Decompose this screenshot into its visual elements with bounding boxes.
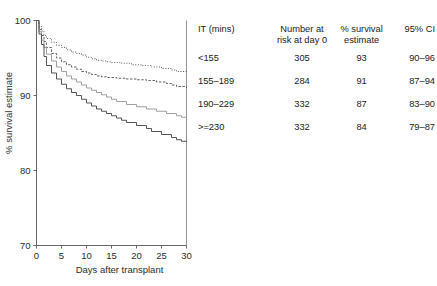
- column-header-ci-line1: 95% CI: [390, 24, 435, 35]
- cell-it: >=230: [198, 117, 271, 140]
- cell-ci: 83–90: [390, 94, 437, 117]
- x-tick-label: 30: [181, 250, 192, 261]
- column-header-it-line1: IT (mins): [198, 24, 271, 35]
- table-body: <1553059390–96155–1892849187–94190–22933…: [198, 48, 437, 140]
- survival-stats-table: IT (mins) Number at risk at day 0 % surv…: [198, 24, 437, 140]
- survival-figure: 708090100051015202530Days after transpla…: [0, 0, 437, 286]
- x-axis-title: Days after transplant: [76, 264, 164, 275]
- cell-ci: 79–87: [390, 117, 437, 140]
- cell-it: 190–229: [198, 94, 271, 117]
- stats-table-element: IT (mins) Number at risk at day 0 % surv…: [198, 24, 437, 140]
- survival-curve-4: [37, 21, 187, 143]
- chart-canvas: 708090100051015202530Days after transpla…: [0, 0, 200, 286]
- y-tick-label: 90: [20, 90, 31, 101]
- survival-curve-3: [37, 21, 187, 119]
- column-header-it: IT (mins): [198, 24, 271, 48]
- column-header-number-at-risk-line1: Number at: [271, 24, 333, 35]
- x-tick-label: 20: [131, 250, 142, 261]
- x-tick-label: 0: [34, 250, 39, 261]
- cell-survival-estimate: 91: [333, 71, 391, 94]
- cell-number-at-risk: 332: [271, 94, 333, 117]
- y-tick-label: 80: [20, 165, 31, 176]
- y-axis-title: % survival estimate: [3, 72, 14, 154]
- column-header-survival-estimate-line1: % survival: [333, 24, 391, 35]
- cell-survival-estimate: 93: [333, 48, 391, 71]
- x-tick-label: 25: [156, 250, 167, 261]
- cell-number-at-risk: 332: [271, 117, 333, 140]
- y-tick-label: 100: [15, 15, 31, 26]
- y-tick-label: 70: [20, 240, 31, 251]
- survival-curve-2: [37, 21, 187, 89]
- table-row: 155–1892849187–94: [198, 71, 437, 94]
- survival-chart: 708090100051015202530Days after transpla…: [0, 0, 200, 286]
- cell-ci: 90–96: [390, 48, 437, 71]
- cell-survival-estimate: 87: [333, 94, 391, 117]
- column-header-survival-estimate-line2: estimate: [333, 35, 391, 46]
- table-head: IT (mins) Number at risk at day 0 % surv…: [198, 24, 437, 48]
- column-header-number-at-risk-line2: risk at day 0: [271, 35, 333, 46]
- x-tick-label: 15: [106, 250, 117, 261]
- column-header-survival-estimate: % survival estimate: [333, 24, 391, 48]
- table-row: 190–2293328783–90: [198, 94, 437, 117]
- survival-curve-1: [37, 21, 187, 74]
- cell-number-at-risk: 284: [271, 71, 333, 94]
- x-tick-label: 10: [81, 250, 92, 261]
- x-tick-label: 5: [59, 250, 64, 261]
- table-row: >=2303328479–87: [198, 117, 437, 140]
- cell-number-at-risk: 305: [271, 48, 333, 71]
- table-header-row: IT (mins) Number at risk at day 0 % surv…: [198, 24, 437, 48]
- cell-it: 155–189: [198, 71, 271, 94]
- column-header-ci: 95% CI: [390, 24, 437, 48]
- cell-it: <155: [198, 48, 271, 71]
- column-header-number-at-risk: Number at risk at day 0: [271, 24, 333, 48]
- cell-survival-estimate: 84: [333, 117, 391, 140]
- table-row: <1553059390–96: [198, 48, 437, 71]
- cell-ci: 87–94: [390, 71, 437, 94]
